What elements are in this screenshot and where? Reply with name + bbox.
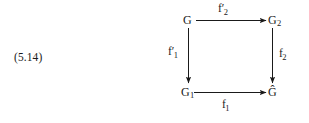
vertex-subscript: 1 bbox=[190, 90, 194, 100]
morphism-subscript: 1 bbox=[225, 103, 229, 113]
vertex-bottom-left-G1: G1 bbox=[181, 86, 194, 100]
vertex-base: G bbox=[268, 13, 277, 27]
vertex-top-right-G2: G2 bbox=[268, 14, 281, 28]
commutative-diagram: G G2 G1 Ĝ f′2 f′1 f2 f1 bbox=[0, 0, 309, 123]
vertex-top-left-G: G bbox=[183, 14, 192, 28]
morphism-label-left: f′1 bbox=[168, 46, 178, 59]
diagram-arrows-canvas bbox=[0, 0, 309, 123]
morphism-subscript: 1 bbox=[174, 50, 178, 60]
equation-figure: (5.14) G G2 G1 bbox=[0, 0, 309, 123]
vertex-base: G bbox=[183, 13, 192, 27]
morphism-label-bottom: f1 bbox=[222, 99, 230, 112]
morphism-label-top: f′2 bbox=[218, 3, 228, 16]
vertex-base: Ĝ bbox=[268, 85, 277, 99]
morphism-subscript: 2 bbox=[282, 52, 286, 62]
vertex-subscript: 2 bbox=[277, 18, 281, 28]
vertex-base: G bbox=[181, 85, 190, 99]
morphism-label-right: f2 bbox=[279, 48, 287, 61]
morphism-subscript: 2 bbox=[224, 7, 228, 17]
vertex-bottom-right-G-hat: Ĝ bbox=[268, 86, 277, 100]
